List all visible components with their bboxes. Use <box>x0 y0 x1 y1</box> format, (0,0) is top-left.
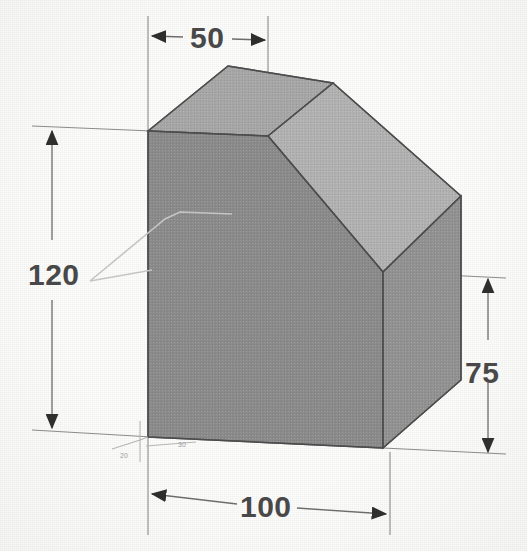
dimension-line-50-right <box>232 39 265 40</box>
dimension-value-120: 120 <box>28 258 80 291</box>
dimension-50: 50 <box>152 21 265 54</box>
dimension-line-50-left <box>152 36 183 37</box>
micro-leader-right <box>146 442 196 446</box>
micro-label-right: 30 <box>178 441 186 448</box>
dimension-value-50: 50 <box>190 21 224 54</box>
dimension-line-100-left <box>152 494 237 504</box>
drawing-sheet: 20 30 50 120 75 100 <box>0 0 527 551</box>
dimension-value-75: 75 <box>465 356 499 389</box>
solid-body <box>148 66 461 448</box>
dimension-75: 75 <box>465 279 499 452</box>
micro-leader-left <box>112 437 148 449</box>
dimension-100: 100 <box>152 490 386 523</box>
extension-line-left-top <box>32 126 152 131</box>
micro-label-left: 20 <box>120 452 128 459</box>
dimension-line-100-right <box>297 508 386 514</box>
extension-line-left-bottom <box>32 430 152 437</box>
isometric-solid-drawing: 20 30 50 120 75 100 <box>0 0 527 551</box>
dimension-120: 120 <box>28 131 80 428</box>
leader-line-branch <box>90 270 152 281</box>
dimension-value-100: 100 <box>240 490 292 523</box>
